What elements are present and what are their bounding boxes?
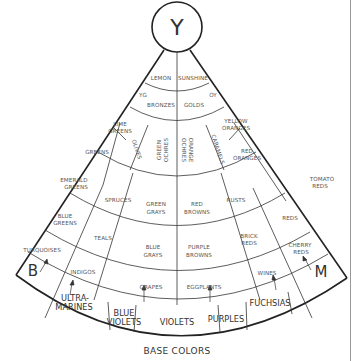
label-indigos: INDIGOS <box>71 269 96 275</box>
label-orange-ochres-2: OCHRES <box>181 138 187 162</box>
label-lemon: LEMON <box>151 75 172 81</box>
label-purple-browns-2: BROWNS <box>186 252 212 258</box>
label-blue-greens-1: BLUE <box>58 213 73 219</box>
label-cherry: CHERRY <box>288 242 312 248</box>
label-wines: WINES <box>258 270 277 276</box>
label-golds: GOLDS <box>184 102 205 108</box>
label-red-browns-1: RED <box>191 201 203 207</box>
label-tomato-reds: REDS <box>312 183 328 189</box>
spoke-caramels-right <box>234 123 286 201</box>
label-grapes: GRAPES <box>140 284 163 290</box>
arc-5 <box>45 230 310 271</box>
color-fan-diagram: Y <box>0 0 355 361</box>
label-blue-greens-2: GREENS <box>53 220 77 226</box>
label-teals: TEALS <box>93 235 112 241</box>
label-green-grays-2: GRAYS <box>147 209 166 215</box>
label-blue-grays-2: GRAYS <box>144 252 163 258</box>
label-caramels: CARAMELS <box>210 134 225 166</box>
label-greens: GREENS <box>85 149 109 155</box>
corner-label-left: B <box>28 262 38 280</box>
label-rusts: RUSTS <box>227 197 246 203</box>
label-emerald: EMERALD <box>60 177 88 183</box>
label-marines: MARINES <box>55 302 92 312</box>
label-spruces: SPRUCES <box>105 197 132 203</box>
label-red: RED <box>241 148 253 154</box>
arc-6 <box>28 252 328 299</box>
label-brick: BRICK <box>240 233 258 239</box>
label-fuchsias: FUCHSIAS <box>250 298 291 308</box>
label-green-ochres-2: OCHRES <box>163 138 169 162</box>
label-oranges: ORANGES <box>222 125 251 131</box>
right-fan-edge <box>190 50 347 278</box>
label-blue-grays-1: BLUE <box>146 244 161 250</box>
label-orange-ochres-1: ORANGE <box>188 138 194 163</box>
label-blue-violets-2: VIOLETS <box>107 317 141 327</box>
label-purples: PURPLES <box>208 314 245 324</box>
labels: LEMON SUNSHINE YG BRONZES GOLDS OY LIME … <box>22 75 335 356</box>
label-yg: YG <box>138 92 147 98</box>
label-cherry-reds: REDS <box>293 249 309 255</box>
label-greens-2: GREENS <box>108 128 132 134</box>
label-eggplants: EGGPLANTS <box>187 284 222 290</box>
label-sunshine: SUNSHINE <box>178 75 208 81</box>
label-reds: REDS <box>282 215 298 221</box>
label-tomato: TOMATO <box>309 176 335 182</box>
left-fan-edge <box>16 50 164 275</box>
label-green-grays-1: GREEN <box>146 201 166 207</box>
diagram-title: BASE COLORS <box>143 346 210 356</box>
label-oy: OY <box>209 92 217 98</box>
label-turquoises: TURQUOISES <box>22 247 61 253</box>
label-yellow: YELLOW <box>223 118 248 124</box>
label-bronzes: BRONZES <box>147 102 175 108</box>
label-lime: LIME <box>113 121 127 127</box>
label-red-browns-2: BROWNS <box>184 209 210 215</box>
apex-label: Y <box>169 15 184 40</box>
corner-label-right: M <box>315 263 328 281</box>
label-green-ochres-1: GREEN <box>156 140 162 160</box>
label-purple-browns-1: PURPLE <box>188 244 210 250</box>
spoke-p-f <box>246 302 247 330</box>
label-brick-reds: REDS <box>241 240 257 246</box>
label-oranges-2: ORANGES <box>233 155 262 161</box>
label-violets: VIOLETS <box>160 317 194 327</box>
label-emerald-greens: GREENS <box>64 184 88 190</box>
arc-4 <box>70 193 285 226</box>
